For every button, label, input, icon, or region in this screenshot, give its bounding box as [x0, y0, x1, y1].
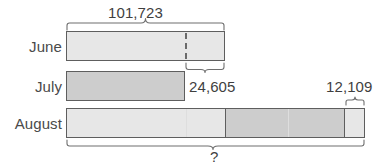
bar-july	[66, 71, 185, 101]
brace-total-june	[66, 22, 225, 31]
bar-august-segment-2a	[225, 109, 288, 137]
bar-august-segment-2b	[288, 109, 344, 137]
bar-august	[66, 108, 365, 138]
bar-july-segment-1	[67, 72, 184, 100]
bar-august-segment-3	[344, 109, 364, 137]
row-label-august: August	[0, 115, 62, 132]
bar-august-segment-1b	[186, 109, 225, 137]
label-unknown-august: ?	[210, 148, 218, 165]
bar-june-segment-1	[67, 32, 185, 60]
label-remainder-june: 24,605	[189, 78, 235, 95]
row-label-july: July	[0, 78, 62, 95]
divider-dashed-june	[185, 33, 187, 59]
bar-model-diagram: 101,723 June 24,605 July 12,109 August	[0, 0, 391, 167]
brace-last-august	[345, 98, 365, 106]
bar-june	[66, 31, 225, 61]
bar-august-segment-1a	[67, 109, 186, 137]
brace-remainder-june	[185, 62, 225, 71]
label-last-august: 12,109	[326, 78, 372, 95]
row-label-june: June	[0, 38, 62, 55]
label-total-june: 101,723	[108, 4, 163, 21]
bar-june-segment-2	[185, 32, 225, 60]
